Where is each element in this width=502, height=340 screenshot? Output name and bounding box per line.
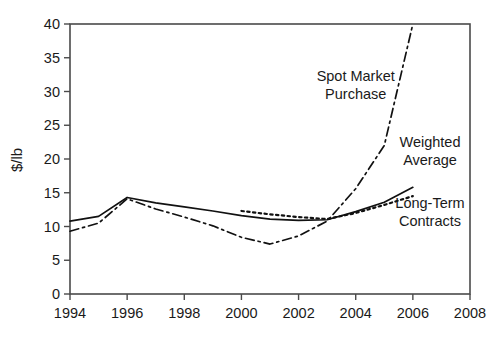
annotation-line-2: Purchase	[325, 86, 386, 102]
y-tick-label: 40	[44, 16, 60, 32]
x-tick-label: 2008	[454, 305, 486, 321]
line-chart: 0510152025303540 19941996199820002002200…	[0, 0, 502, 340]
chart-container: 0510152025303540 19941996199820002002200…	[0, 0, 502, 340]
y-tick-label: 10	[44, 219, 60, 235]
x-tick-label: 1998	[168, 305, 200, 321]
y-tick-label: 25	[44, 117, 60, 133]
chart-background	[0, 0, 502, 340]
x-tick-label: 2002	[282, 305, 314, 321]
y-axis-title: $/lb	[8, 148, 25, 172]
y-tick-label: 5	[52, 252, 60, 268]
y-tick-label: 30	[44, 84, 60, 100]
y-tick-label: 20	[44, 151, 60, 167]
x-tick-label: 1994	[54, 305, 86, 321]
annotation-line-2: Average	[403, 152, 457, 168]
x-tick-label: 2004	[340, 305, 372, 321]
y-tick-label: 15	[44, 185, 60, 201]
x-tick-label: 2000	[225, 305, 257, 321]
y-tick-label: 0	[52, 286, 60, 302]
annotation-line-1: Long-Term	[395, 195, 464, 211]
x-tick-label: 1996	[111, 305, 143, 321]
x-tick-label: 2006	[397, 305, 429, 321]
annotation-line-1: Weighted	[400, 134, 461, 150]
annotation-line-2: Contracts	[399, 213, 461, 229]
annotation-line-1: Spot Market	[317, 68, 395, 84]
y-tick-label: 35	[44, 50, 60, 66]
